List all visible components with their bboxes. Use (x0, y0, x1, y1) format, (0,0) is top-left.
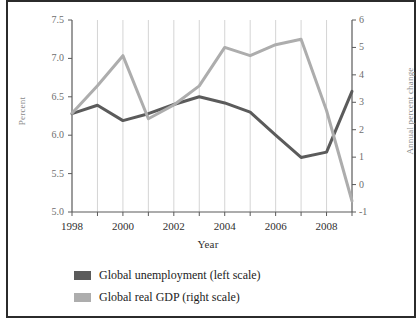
legend-item[interactable]: Global real GDP (right scale) (74, 286, 394, 308)
legend-swatch-unemployment (74, 271, 91, 280)
axis-ticks (68, 20, 356, 216)
y-axis-left-tick-label: 6.5 (38, 91, 64, 102)
y-axis-left-tick-label: 5.0 (38, 206, 64, 217)
y-axis-left-tick-label: 6.0 (38, 129, 64, 140)
y-axis-left-tick-label: 7.5 (38, 14, 64, 25)
y-axis-right-tick-label: 1 (359, 151, 377, 162)
y-axis-right-tick-label: 0 (359, 179, 377, 190)
x-axis-tick-label: 2006 (256, 220, 296, 232)
legend-item-label: Global real GDP (right scale) (99, 290, 240, 305)
y-axis-right-tick-label: 6 (359, 14, 377, 25)
y-axis-right-tick-label: 4 (359, 69, 377, 80)
x-axis-tick-label: 2008 (307, 220, 347, 232)
y-axis-left-tick-label: 5.5 (38, 168, 64, 179)
y-axis-right-title: Annual percent change (405, 56, 415, 166)
series-lines (72, 39, 352, 201)
y-axis-right-tick-label: 3 (359, 96, 377, 107)
x-axis-title: Year (128, 238, 288, 250)
y-axis-left-title: Percent (17, 81, 27, 141)
y-axis-left-tick-label: 7.0 (38, 52, 64, 63)
figure-page: Percent Annual percent change Year 7.57.… (0, 0, 419, 318)
x-axis-tick-label: 2000 (103, 220, 143, 232)
chart-legend: Global unemployment (left scale)Global r… (74, 264, 394, 308)
x-axis-tick-label: 1998 (52, 220, 92, 232)
chart-figure: Percent Annual percent change Year 7.57.… (8, 2, 416, 316)
x-axis-tick-label: 2004 (205, 220, 245, 232)
x-axis-tick-label: 2002 (154, 220, 194, 232)
legend-item[interactable]: Global unemployment (left scale) (74, 264, 394, 286)
legend-item-label: Global unemployment (left scale) (99, 268, 261, 283)
y-axis-right-tick-label: -1 (359, 206, 377, 217)
y-axis-right-tick-label: 2 (359, 124, 377, 135)
legend-swatch-gdp (74, 293, 91, 302)
gridlines (97, 20, 326, 212)
y-axis-right-tick-label: 5 (359, 41, 377, 52)
